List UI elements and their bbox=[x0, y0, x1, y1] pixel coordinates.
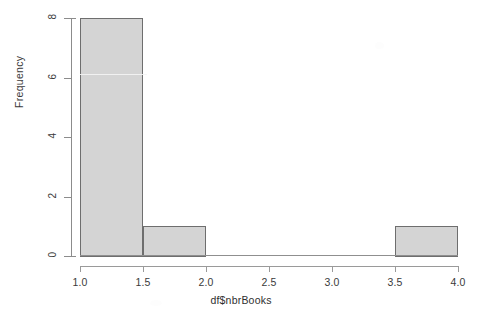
y-tick bbox=[64, 78, 71, 79]
x-tick bbox=[206, 266, 207, 272]
x-tick bbox=[269, 266, 270, 272]
x-tick bbox=[143, 266, 144, 272]
y-tick-label: 8 bbox=[47, 7, 58, 27]
histogram-bar bbox=[143, 226, 206, 257]
x-tick-label: 1.0 bbox=[60, 276, 100, 288]
y-axis-cap-top bbox=[71, 18, 76, 19]
x-tick-label: 1.5 bbox=[123, 276, 163, 288]
x-tick bbox=[395, 266, 396, 272]
scan-smudge bbox=[375, 42, 384, 49]
x-tick bbox=[332, 266, 333, 272]
y-tick bbox=[64, 197, 71, 198]
y-axis-cap-bottom bbox=[71, 256, 76, 257]
x-tick-label: 3.5 bbox=[375, 276, 415, 288]
y-tick bbox=[64, 18, 71, 19]
y-tick-label: 0 bbox=[47, 245, 58, 265]
x-tick-label: 3.0 bbox=[312, 276, 352, 288]
x-tick-label: 2.0 bbox=[186, 276, 226, 288]
x-tick-label: 4.0 bbox=[438, 276, 478, 288]
histogram-bar bbox=[80, 18, 143, 257]
zero-baseline bbox=[80, 255, 458, 256]
histogram-bar bbox=[395, 226, 458, 257]
x-tick-label: 2.5 bbox=[249, 276, 289, 288]
y-tick bbox=[64, 137, 71, 138]
x-tick bbox=[458, 266, 459, 272]
x-tick bbox=[80, 266, 81, 272]
y-axis-line bbox=[71, 18, 72, 256]
y-axis-title: Frequency bbox=[13, 56, 25, 108]
y-tick bbox=[64, 256, 71, 257]
histogram-plot: Frequency 02468 1.01.52.02.53.03.54.0 df… bbox=[0, 0, 482, 320]
y-tick-label: 4 bbox=[47, 126, 58, 146]
x-axis-title: df$nbrBooks bbox=[0, 294, 482, 306]
y-tick-label: 2 bbox=[47, 186, 58, 206]
scan-artifact-line bbox=[80, 74, 147, 75]
plot-figure: Frequency 02468 1.01.52.02.53.03.54.0 df… bbox=[0, 0, 482, 320]
y-tick-label: 6 bbox=[47, 67, 58, 87]
